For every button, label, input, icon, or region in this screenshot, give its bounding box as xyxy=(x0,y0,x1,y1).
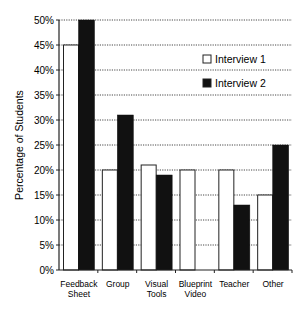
legend-label-interview-1: Interview 1 xyxy=(215,53,266,65)
x-category-label: Video xyxy=(185,289,207,299)
bar-interview-1 xyxy=(64,45,79,270)
bar-interview-1 xyxy=(180,170,195,270)
x-category-label: Sheet xyxy=(68,289,91,299)
bar-interview-1 xyxy=(102,170,117,270)
bar-interview-1 xyxy=(258,195,273,270)
y-tick-label: 15% xyxy=(34,190,54,201)
legend: Interview 1Interview 2 xyxy=(203,53,266,89)
bar-interview-2 xyxy=(156,175,172,270)
y-tick-label: 20% xyxy=(34,165,54,176)
x-category-label: Visual xyxy=(145,279,168,289)
bar-interview-2 xyxy=(79,20,95,270)
bar-interview-1 xyxy=(219,170,234,270)
y-tick-label: 35% xyxy=(34,90,54,101)
x-category-labels: FeedbackSheetGroupVisualToolsBlueprintVi… xyxy=(60,279,284,299)
y-axis-label: Percentage of Students xyxy=(13,90,25,200)
bar-interview-1 xyxy=(141,165,156,270)
legend-label-interview-2: Interview 2 xyxy=(215,77,266,89)
y-tick-label: 50% xyxy=(34,15,54,26)
y-tick-labels: 0%5%10%15%20%25%30%35%40%45%50% xyxy=(34,15,54,276)
y-tick-label: 30% xyxy=(34,115,54,126)
legend-swatch-interview-2 xyxy=(203,79,211,87)
y-tick-label: 25% xyxy=(34,140,54,151)
y-tick-label: 40% xyxy=(34,65,54,76)
x-category-label: Teacher xyxy=(219,279,249,289)
legend-swatch-interview-1 xyxy=(203,55,211,63)
y-tick-label: 10% xyxy=(34,215,54,226)
x-category-label: Feedback xyxy=(60,279,98,289)
x-category-label: Tools xyxy=(147,289,167,299)
bar-interview-2 xyxy=(234,205,250,270)
y-tick-label: 0% xyxy=(40,265,55,276)
x-category-label: Blueprint xyxy=(179,279,213,289)
bar-chart: 0%5%10%15%20%25%30%35%40%45%50% Feedback… xyxy=(0,0,306,312)
bar-interview-2 xyxy=(117,115,133,270)
y-tick-label: 45% xyxy=(34,40,54,51)
y-tick-label: 5% xyxy=(40,240,55,251)
bar-interview-2 xyxy=(273,145,289,270)
x-category-label: Other xyxy=(262,279,283,289)
x-category-label: Group xyxy=(106,279,130,289)
